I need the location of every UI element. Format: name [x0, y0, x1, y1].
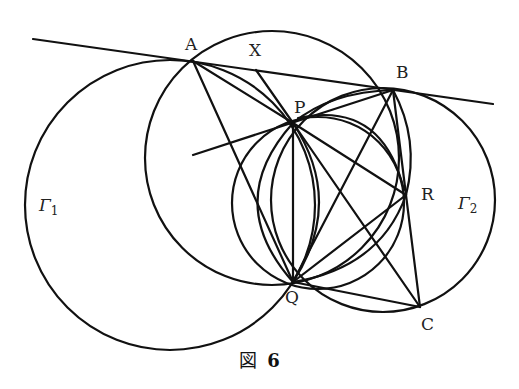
label-r: R: [421, 184, 435, 204]
label-gamma2: Γ2: [457, 193, 477, 216]
segment-bq: [293, 90, 393, 282]
segment-qc: [293, 282, 420, 307]
segment-xp: [256, 70, 293, 123]
label-q: Q: [285, 287, 299, 307]
segment-aq: [193, 61, 293, 282]
caption-number: 6: [267, 350, 280, 371]
label-b: B: [396, 62, 409, 82]
circle-abq: [145, 31, 399, 285]
figure-caption: 図6: [0, 346, 519, 372]
geometry-figure: A X B P R Q C Γ1 Γ2: [0, 0, 519, 389]
label-c: C: [421, 314, 434, 334]
label-p: P: [294, 97, 305, 117]
label-gamma1: Γ1: [38, 195, 58, 218]
label-a: A: [184, 34, 198, 54]
label-x: X: [249, 40, 262, 60]
segment-pr: [293, 123, 406, 195]
caption-prefix: 図: [239, 350, 257, 371]
